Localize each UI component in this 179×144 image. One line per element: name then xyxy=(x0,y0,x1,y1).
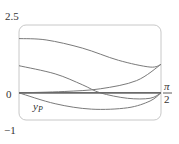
chart: 2.5 0 −1 π 2 yP xyxy=(0,0,179,144)
curve-label-subscript: P xyxy=(37,105,43,114)
curve-label-yp: yP xyxy=(32,100,43,114)
series-curve-1 xyxy=(19,39,161,68)
y-tick-label-zero: 0 xyxy=(6,88,12,100)
series-layer xyxy=(19,39,161,110)
x-tick-label-numerator: π xyxy=(164,80,170,92)
y-tick-label-bottom: −1 xyxy=(4,124,16,136)
y-tick-label-top: 2.5 xyxy=(5,10,19,22)
series-curve-2 xyxy=(19,66,161,99)
x-tick-label-denominator: 2 xyxy=(164,93,170,105)
